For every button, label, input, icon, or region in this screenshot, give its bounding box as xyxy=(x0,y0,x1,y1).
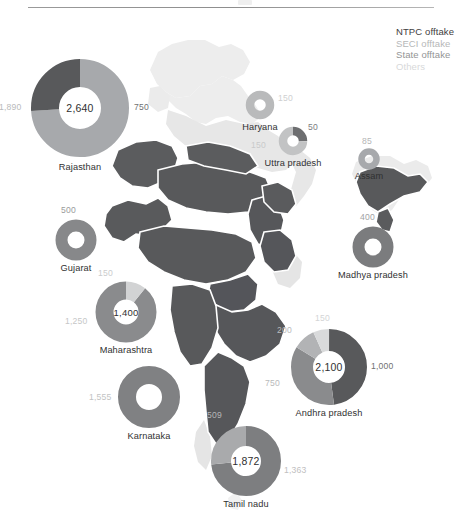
infographic-canvas: NTPC offtake SECI offtake State offtake … xyxy=(0,0,464,514)
donut-label: Madhya pradesh xyxy=(338,270,408,280)
legend-item-seci: SECI offtake xyxy=(396,38,450,50)
donut-haryana[interactable]: Haryana 150 xyxy=(245,90,275,120)
segment-value-ntpc: 50 xyxy=(308,122,318,132)
donut-ring: 1,872 xyxy=(210,425,282,497)
donut-label: Andhra pradesh xyxy=(296,408,363,418)
segment-value-seci: 150 xyxy=(251,140,266,150)
segment-value-seci: 1,890 xyxy=(0,102,22,112)
donut-label: Karnataka xyxy=(128,431,171,441)
donut-label: Haryana xyxy=(242,122,277,132)
donut-center-value: 1,872 xyxy=(210,425,282,497)
donut-maharashtra[interactable]: 1,400 Maharashtra 1,250 150 xyxy=(95,281,157,343)
segment-value-seci: 500 xyxy=(61,205,76,215)
segment-value-others: 150 xyxy=(98,268,113,278)
donut-assam[interactable]: Assam 85 xyxy=(358,148,380,170)
donut-label: Uttra pradesh xyxy=(265,158,322,168)
segment-value-seci: 750 xyxy=(265,378,280,388)
segment-value-others: 85 xyxy=(362,136,372,146)
donut-uttar-pradesh[interactable]: Uttra pradesh 50 150 xyxy=(278,126,308,156)
segment-value-state: 200 xyxy=(277,325,292,335)
donut-karnataka[interactable]: Karnataka 1,555 xyxy=(117,365,181,429)
segment-value-others: 150 xyxy=(315,313,330,323)
legend-item-others: Others xyxy=(396,61,425,73)
legend-item-ntpc: NTPC offtake xyxy=(396,26,454,38)
segment-value-seci: 1,555 xyxy=(89,392,112,402)
donut-ring xyxy=(245,90,275,120)
donut-ring xyxy=(358,148,380,170)
donut-label: Rajasthan xyxy=(59,162,101,172)
donut-ring: 2,640 xyxy=(30,58,130,158)
donut-madhya-pradesh[interactable]: Madhya pradesh 400 xyxy=(352,226,394,268)
donut-gujarat[interactable]: Gujarat 500 xyxy=(55,219,97,261)
donut-ring: 2,100 xyxy=(290,328,368,406)
legend: NTPC offtake SECI offtake State offtake … xyxy=(396,26,454,72)
donut-label: Assam xyxy=(355,171,384,181)
donut-center-value: 2,640 xyxy=(30,58,130,158)
segment-value-ntpc: 1,000 xyxy=(371,361,394,371)
segment-value-others: 150 xyxy=(278,93,293,103)
donut-ring xyxy=(278,126,308,156)
donut-label: Maharashtra xyxy=(100,345,153,355)
donut-center-value: 1,400 xyxy=(95,281,157,343)
donut-ring: 1,400 xyxy=(95,281,157,343)
donut-center-value: 2,100 xyxy=(290,328,368,406)
donut-label: Gujarat xyxy=(61,263,92,273)
legend-item-state: State offtake xyxy=(396,49,450,61)
segment-value-ntpc: 1,363 xyxy=(284,465,307,475)
donut-ring xyxy=(117,365,181,429)
segment-value-seci: 1,250 xyxy=(65,316,88,326)
segment-value-ntpc: 750 xyxy=(134,102,149,112)
segment-value-seci: 509 xyxy=(207,410,222,420)
donut-label: Tamil nadu xyxy=(223,499,268,509)
donut-rajasthan[interactable]: 2,640 Rajasthan 1,890 750 xyxy=(30,58,130,158)
donut-ring xyxy=(352,226,394,268)
donut-ring xyxy=(55,219,97,261)
donut-tamil-nadu[interactable]: 1,872 Tamil nadu 509 1,363 xyxy=(210,425,282,497)
donut-andhra-pradesh[interactable]: 2,100 Andhra pradesh 1,000 750 200 150 xyxy=(290,328,368,406)
segment-value-seci: 400 xyxy=(360,212,375,222)
